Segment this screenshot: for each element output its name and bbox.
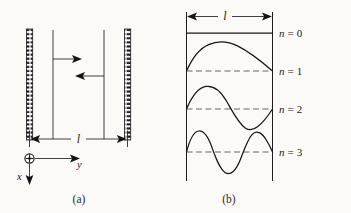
axis-y-label: y: [76, 159, 82, 170]
mode-label-n1-eq: =: [288, 65, 294, 77]
caption-panel-b: (b): [222, 193, 236, 206]
mode-curve-n1: [187, 42, 273, 71]
origin-circled-plus-icon: [25, 154, 34, 163]
svg-text:n=2: n=2: [279, 103, 302, 115]
svg-text:n=0: n=0: [279, 27, 303, 39]
caption-panel-a: (a): [73, 193, 86, 206]
length-label-a: l: [77, 132, 81, 146]
figure-container: l y x (a): [0, 0, 351, 213]
mode-label-n1-n: n: [279, 65, 285, 77]
mode-label-n3-n: n: [279, 146, 285, 158]
length-label-b: l: [223, 9, 227, 23]
right-wall: [125, 29, 131, 140]
arrow-right-propagation: [53, 55, 82, 63]
panel-a: l y x (a): [16, 29, 131, 206]
svg-text:n=3: n=3: [279, 146, 303, 158]
mode-label-n2-value: 2: [297, 103, 303, 115]
mode-curve-n2: [187, 86, 273, 129]
arrow-left-propagation: [75, 72, 104, 80]
dimension-l-panel-a: l: [30, 131, 128, 148]
mode-label-n3: n=3: [279, 146, 303, 158]
mode-label-n0: n=0: [279, 27, 303, 39]
axis-x-label: x: [16, 171, 22, 182]
mode-label-n3-value: 3: [297, 146, 303, 158]
axis-y: y: [35, 155, 82, 170]
mode-label-n0-eq: =: [288, 27, 294, 39]
mode-label-n3-eq: =: [288, 146, 294, 158]
dimension-l-panel-b: l: [187, 9, 272, 23]
svg-text:n=1: n=1: [279, 65, 302, 77]
left-wall: [27, 29, 33, 140]
mode-label-n0-value: 0: [297, 27, 303, 39]
panel-b: l n=0 n=1: [187, 9, 303, 206]
mode-label-n2-eq: =: [288, 103, 294, 115]
mode-label-n1-value: 1: [297, 65, 303, 77]
mode-label-n0-n: n: [279, 27, 285, 39]
mode-label-n1: n=1: [279, 65, 302, 77]
figure-svg: l y x (a): [0, 0, 351, 213]
axis-x: x: [16, 164, 33, 185]
mode-label-n2: n=2: [279, 103, 302, 115]
mode-label-n2-n: n: [279, 103, 285, 115]
